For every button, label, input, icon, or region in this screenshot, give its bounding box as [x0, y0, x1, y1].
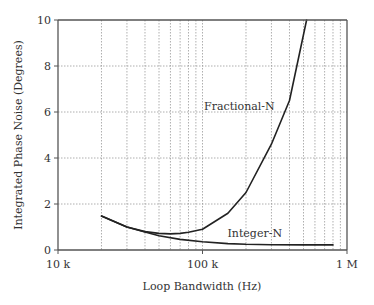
y-tick-label: 8	[44, 60, 51, 73]
y-tick-label: 2	[44, 198, 51, 211]
x-tick-label: 10 k	[46, 258, 70, 271]
axis-ticks: 024681010 k100 k1 M	[37, 14, 358, 271]
x-tick-label: 1 M	[336, 258, 358, 271]
y-tick-label: 6	[44, 106, 51, 119]
chart-canvas: 024681010 k100 k1 M Fractional-NInteger-…	[0, 0, 374, 305]
y-tick-label: 0	[44, 244, 51, 257]
y-axis-label: Integrated Phase Noise (Degrees)	[12, 40, 25, 230]
annotation-integer-n: Integer-N	[228, 227, 283, 240]
y-tick-label: 10	[37, 14, 51, 27]
annotation-fractional-n: Fractional-N	[204, 100, 275, 113]
y-tick-label: 4	[44, 152, 51, 165]
x-axis-label: Loop Bandwidth (Hz)	[143, 280, 262, 293]
x-tick-label: 100 k	[187, 258, 218, 271]
data-series	[102, 20, 334, 245]
phase-noise-chart: 024681010 k100 k1 M Fractional-NInteger-…	[0, 0, 374, 305]
series-fractional-n	[102, 20, 307, 234]
curve-annotations: Fractional-NInteger-N	[204, 100, 282, 241]
